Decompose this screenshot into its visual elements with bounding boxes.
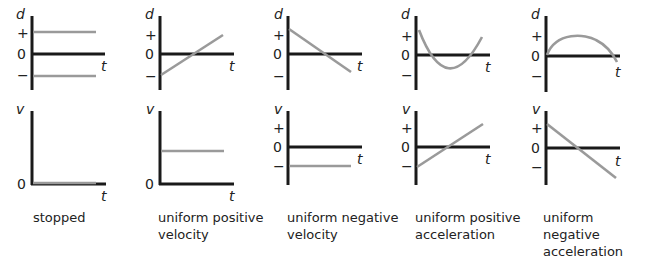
zero-tick: 0	[401, 47, 410, 63]
d-label: d	[145, 6, 154, 22]
v-graph: v 0 t	[145, 101, 235, 204]
caption-line: acceleration	[415, 226, 521, 243]
minus-tick: −	[273, 158, 285, 174]
caption-stopped: stopped	[33, 209, 86, 226]
zero-tick: 0	[145, 176, 154, 192]
caption-line: velocity	[287, 226, 398, 243]
zero-tick: 0	[17, 46, 26, 62]
d-label: d	[401, 6, 410, 22]
t-label: t	[485, 59, 491, 75]
velocity-line-falling	[547, 124, 616, 178]
v-label: v	[274, 101, 283, 117]
zero-tick: 0	[531, 48, 540, 64]
plus-tick: +	[273, 120, 285, 136]
caption-line: acceleration	[543, 243, 649, 260]
t-label: t	[615, 153, 621, 169]
plus-tick: +	[531, 28, 543, 44]
caption-line: uniform positive	[415, 209, 521, 226]
t-label: t	[485, 151, 491, 167]
t-label: t	[229, 58, 235, 74]
d-label: d	[16, 6, 25, 22]
caption-line: uniform positive	[158, 209, 264, 226]
plus-tick: +	[401, 120, 413, 136]
panel-uniform-negative-acceleration: d + 0 − t v + 0 − t	[531, 6, 621, 185]
zero-tick: 0	[273, 139, 282, 155]
minus-tick: −	[531, 68, 543, 84]
caption-uniform-negative-acceleration: uniform negative acceleration	[543, 209, 649, 260]
zero-tick: 0	[531, 140, 540, 156]
v-graph: v + 0 − t	[401, 101, 491, 185]
minus-tick: −	[401, 158, 413, 174]
d-graph: d + 0 − t	[531, 6, 621, 92]
panel-uniform-positive-acceleration: d + 0 − t v + 0 − t	[401, 6, 491, 185]
v-label: v	[532, 101, 541, 117]
d-graph: d + 0 − t	[145, 6, 235, 90]
caption-line: velocity	[158, 226, 264, 243]
zero-tick: 0	[145, 46, 154, 62]
zero-tick: 0	[273, 46, 282, 62]
panel-uniform-negative-velocity: d + 0 − t v + 0 − t	[273, 6, 363, 185]
v-graph: v 0 t	[16, 101, 107, 204]
v-graph: v + 0 − t	[531, 101, 621, 185]
position-parabola-down	[547, 36, 617, 62]
plus-tick: +	[273, 27, 285, 43]
caption-uniform-positive-velocity: uniform positive velocity	[158, 209, 264, 243]
caption-uniform-positive-acceleration: uniform positive acceleration	[415, 209, 521, 243]
t-label: t	[101, 188, 107, 204]
t-label: t	[615, 64, 621, 80]
plus-tick: +	[401, 28, 413, 44]
d-graph: d + 0 − t	[273, 6, 363, 90]
minus-tick: −	[401, 67, 413, 83]
zero-tick: 0	[17, 176, 26, 192]
d-label: d	[531, 6, 540, 22]
panel-uniform-positive-velocity: d + 0 − t v 0 t	[145, 6, 235, 204]
plus-tick: +	[531, 120, 543, 136]
caption-line: uniform negative	[543, 209, 649, 243]
plus-tick: +	[17, 25, 29, 41]
minus-tick: −	[273, 68, 285, 84]
v-label: v	[16, 101, 25, 117]
position-line-falling	[289, 29, 351, 72]
zero-tick: 0	[401, 139, 410, 155]
caption-line: uniform negative	[287, 209, 398, 226]
caption-uniform-negative-velocity: uniform negative velocity	[287, 209, 398, 243]
minus-tick: −	[145, 68, 157, 84]
d-label: d	[274, 6, 283, 22]
v-label: v	[146, 101, 155, 117]
t-label: t	[357, 151, 363, 167]
v-graph: v + 0 − t	[273, 101, 363, 185]
panel-stopped: d + 0 − t v 0 t	[16, 6, 107, 204]
t-label: t	[101, 58, 107, 74]
t-label: t	[229, 188, 235, 204]
plus-tick: +	[145, 27, 157, 43]
position-parabola-up	[419, 30, 482, 68]
t-label: t	[357, 58, 363, 74]
minus-tick: −	[17, 67, 29, 83]
minus-tick: −	[531, 159, 543, 175]
d-graph: d + 0 − t	[401, 6, 491, 90]
v-label: v	[402, 101, 411, 117]
caption-line: stopped	[33, 209, 86, 226]
d-graph: d + 0 − t	[16, 6, 107, 90]
